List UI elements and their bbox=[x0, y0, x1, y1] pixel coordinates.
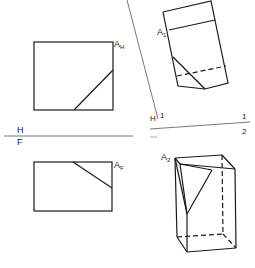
fold-label-12-2: 2 bbox=[242, 127, 247, 136]
top-view-figure bbox=[34, 42, 113, 110]
fold-label-h1-1: 1 bbox=[160, 111, 165, 120]
label-af: AF bbox=[114, 160, 124, 171]
label-a1: A1 bbox=[157, 27, 167, 38]
aux1-view-figure bbox=[163, 1, 228, 89]
fold-line-12 bbox=[150, 122, 250, 129]
fold-label-h1-h: H bbox=[150, 114, 156, 123]
fold-label-f: F bbox=[17, 137, 23, 147]
aux2-view-figure bbox=[175, 155, 236, 252]
label-ah: AH bbox=[114, 39, 124, 50]
auxiliary-views-diagram: AH H F AF H 1 1 2 A1 bbox=[0, 0, 255, 268]
fold-label-12-1: 1 bbox=[242, 112, 247, 121]
label-a2: A2 bbox=[161, 152, 171, 163]
fold-label-h: H bbox=[17, 125, 24, 135]
front-view-figure bbox=[34, 162, 112, 211]
fold-line-h1 bbox=[127, 0, 158, 119]
